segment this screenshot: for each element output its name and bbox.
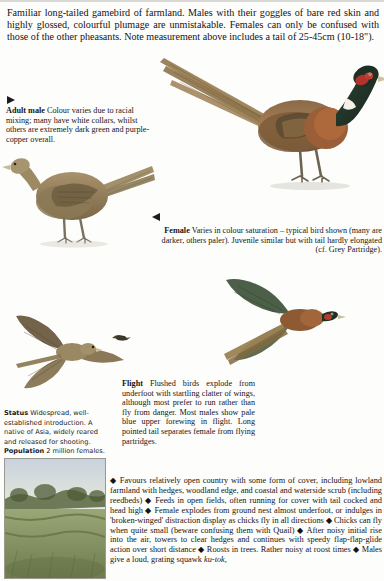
- status-block: Status Widespread, well-established intr…: [4, 409, 107, 457]
- habits-call-text: ku-tok,: [204, 555, 227, 564]
- habits-bullet-6: ◆: [353, 545, 359, 554]
- page-top-rule: [0, 0, 384, 2]
- caption-female: Female Varies in colour saturation – typ…: [158, 226, 382, 255]
- habits-bullet-3: ◆: [326, 516, 332, 525]
- male-pointer-icon: [7, 96, 15, 104]
- caption-female-text: Varies in colour saturation – typical bi…: [162, 226, 382, 254]
- intro-paragraph: Familiar long-tailed gamebird of farmlan…: [7, 7, 379, 43]
- status-label: Status: [4, 409, 28, 417]
- female-pheasant-illustration: [2, 140, 162, 250]
- habits-bullet-0: ◆: [110, 476, 117, 485]
- caption-flight-text: Flushed birds explode from underfoot wit…: [122, 379, 255, 446]
- adult-male-pheasant-illustration: [150, 36, 384, 216]
- female-pointer-icon: [152, 213, 160, 221]
- female-in-flight-illustration: [10, 300, 130, 400]
- habitat-photo: [4, 458, 106, 579]
- habits-paragraph: ◆ Favours relatively open country with s…: [110, 476, 382, 565]
- habits-bullet-1: ◆: [145, 496, 152, 505]
- caption-female-label: Female: [164, 226, 189, 235]
- habitat-photo-image: [5, 459, 105, 578]
- caption-adult-male: Adult male Colour varies due to racial m…: [6, 106, 156, 144]
- habits-item-5: Roosts in trees. Rather noisy at roost t…: [207, 545, 351, 554]
- habits-bullet-2: ◆: [145, 506, 151, 515]
- field-guide-page: Familiar long-tailed gamebird of farmlan…: [0, 0, 384, 581]
- male-in-flight-illustration: [218, 268, 368, 388]
- population-text: 2 million females.: [44, 447, 105, 455]
- caption-flight: Flight Flushed birds explode from underf…: [122, 379, 255, 446]
- caption-flight-label: Flight: [122, 379, 143, 388]
- distant-flying-bird-illustration: [108, 330, 134, 346]
- habits-bullet-4: ◆: [297, 526, 304, 535]
- habits-bullet-5: ◆: [198, 545, 204, 554]
- caption-adult-male-label: Adult male: [6, 106, 45, 115]
- population-label: Population: [4, 447, 44, 455]
